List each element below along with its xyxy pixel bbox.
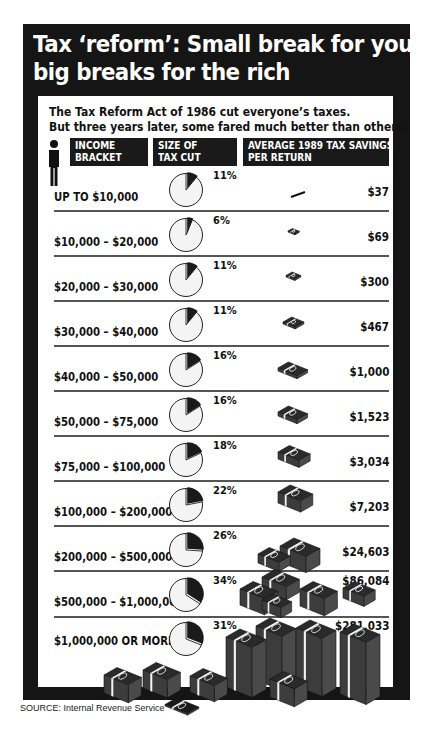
average-savings-value: $300 <box>360 275 389 289</box>
tax-cut-percent: 11% <box>213 304 237 317</box>
pie-chart-icon <box>168 260 206 298</box>
table-row: $200,000 – $500,00026%$24,603 <box>38 525 393 570</box>
pie-chart-icon <box>168 215 206 253</box>
income-bracket-label: $100,000 – $200,000 <box>54 505 172 519</box>
income-bracket-label: UP TO $10,000 <box>54 190 138 204</box>
table-row: $100,000 – $200,00022%$7,203 <box>38 480 393 525</box>
pie-chart-icon <box>168 619 206 657</box>
subtitle: The Tax Reform Act of 1986 cut everyone’… <box>49 104 407 134</box>
tax-cut-percent: 11% <box>213 169 237 182</box>
pie-chart-icon <box>168 170 206 208</box>
income-bracket-label: $10,000 – $20,000 <box>54 235 158 249</box>
income-bracket-label: $75,000 – $100,000 <box>54 460 165 474</box>
title-line-1: Tax ‘reform’: Small break for you, <box>33 30 377 58</box>
income-bracket-label: $40,000 – $50,000 <box>54 370 158 384</box>
average-savings-value: $86,084 <box>342 574 389 588</box>
header-size-line2: TAX CUT <box>158 152 229 164</box>
header-savings-line1: AVERAGE 1989 TAX SAVINGS <box>248 140 375 152</box>
table-row: $20,000 – $30,00011%$300 <box>38 255 393 300</box>
tax-cut-percent: 26% <box>213 529 237 542</box>
tax-cut-percent: 18% <box>213 439 237 452</box>
pie-chart-icon <box>168 395 206 433</box>
average-savings-value: $1,523 <box>349 410 389 424</box>
tax-cut-percent: 16% <box>213 394 237 407</box>
average-savings-value: $37 <box>367 185 389 199</box>
income-bracket-label: $500,000 – $1,000,000 <box>54 595 183 609</box>
header-size-line1: SIZE OF <box>158 140 229 152</box>
tax-cut-percent: 16% <box>213 349 237 362</box>
subtitle-line-2: But three years later, some fared much b… <box>49 119 407 134</box>
header-average-savings: AVERAGE 1989 TAX SAVINGS PER RETURN <box>243 138 389 166</box>
average-savings-value: $24,603 <box>342 545 389 559</box>
tax-cut-percent: 34% <box>213 574 237 587</box>
infographic-title: Tax ‘reform’: Small break for you, big b… <box>33 30 377 86</box>
table-row: $10,000 – $20,0006%$69 <box>38 210 393 255</box>
table-row: $500,000 – $1,000,00034%$86,084 <box>38 570 393 616</box>
tax-cut-percent: 31% <box>213 619 237 632</box>
header-savings-line2: PER RETURN <box>248 152 375 164</box>
average-savings-value: $7,203 <box>349 500 389 514</box>
pie-chart-icon <box>168 305 206 343</box>
tax-cut-percent: 22% <box>213 484 237 497</box>
income-bracket-label: $30,000 – $40,000 <box>54 325 158 339</box>
table-row: $75,000 – $100,00018%$3,034 <box>38 435 393 480</box>
header-income-line1: INCOME <box>75 140 141 152</box>
table-row: $40,000 – $50,00016%$1,000 <box>38 345 393 390</box>
money-stack-icon <box>165 698 199 715</box>
subtitle-line-1: The Tax Reform Act of 1986 cut everyone’… <box>49 104 407 119</box>
income-bracket-label: $50,000 – $75,000 <box>54 415 158 429</box>
table-row: $1,000,000 OR MORE31%$281,033 <box>38 616 393 687</box>
pie-chart-icon <box>168 350 206 388</box>
average-savings-value: $3,034 <box>349 455 389 469</box>
header-income-bracket: INCOME BRACKET <box>70 138 148 166</box>
average-savings-value: $1,000 <box>349 365 389 379</box>
tax-cut-percent: 11% <box>213 259 237 272</box>
pie-chart-icon <box>168 575 206 613</box>
income-bracket-label: $1,000,000 OR MORE <box>54 634 175 648</box>
pie-chart-icon <box>168 485 206 523</box>
pie-chart-icon <box>168 440 206 478</box>
tax-cut-percent: 6% <box>213 214 230 227</box>
pie-chart-icon <box>168 530 206 568</box>
header-size-of-tax-cut: SIZE OF TAX CUT <box>153 138 237 166</box>
source-note: SOURCE: Internal Revenue Service <box>20 703 165 713</box>
header-income-line2: BRACKET <box>75 152 141 164</box>
average-savings-value: $69 <box>367 230 389 244</box>
title-line-2: big breaks for the rich <box>33 58 377 86</box>
table-row: UP TO $10,00011%$37 <box>38 165 393 210</box>
income-bracket-label: $200,000 – $500,000 <box>54 550 172 564</box>
table-row: $50,000 – $75,00016%$1,523 <box>38 390 393 435</box>
average-savings-value: $467 <box>360 320 389 334</box>
average-savings-value: $281,033 <box>335 619 389 633</box>
table-row: $30,000 – $40,00011%$467 <box>38 300 393 345</box>
income-bracket-label: $20,000 – $30,000 <box>54 280 158 294</box>
